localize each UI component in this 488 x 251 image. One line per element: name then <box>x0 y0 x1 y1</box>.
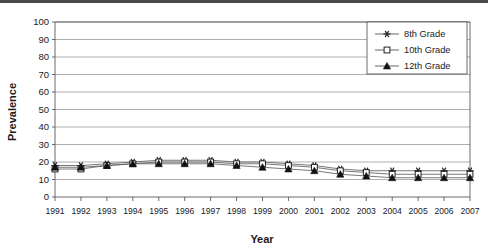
y-tick-label: 10 <box>38 174 49 185</box>
y-tick-label: 50 <box>38 104 49 115</box>
x-tick-label: 1997 <box>201 206 220 216</box>
chart-figure: 0102030405060708090100 19911992199319941… <box>0 0 488 251</box>
x-tick-label: 1993 <box>97 206 116 216</box>
x-tick-label: 2004 <box>383 206 402 216</box>
x-tick-labels-group: 1991199219931994199519961997199819992000… <box>45 206 479 216</box>
x-tick-label: 2003 <box>357 206 376 216</box>
x-tick-label: 2007 <box>460 206 479 216</box>
x-axis-title: Year <box>250 233 274 245</box>
legend-label: 10th Grade <box>404 45 451 55</box>
legend-label: 12th Grade <box>404 61 451 71</box>
y-tick-labels-group: 0102030405060708090100 <box>33 16 49 202</box>
x-tick-label: 2000 <box>279 206 298 216</box>
y-axis-title: Prevalence <box>6 83 18 141</box>
x-tick-label: 1991 <box>45 206 64 216</box>
y-tick-label: 80 <box>38 51 49 62</box>
y-tick-label: 30 <box>38 139 49 150</box>
y-tick-label: 0 <box>44 191 49 202</box>
data-point-marker <box>384 47 390 53</box>
x-tick-label: 2006 <box>435 206 454 216</box>
x-tick-label: 1992 <box>71 206 90 216</box>
y-tick-label: 60 <box>38 86 49 97</box>
x-tick-label: 1998 <box>227 206 246 216</box>
x-tick-label: 2001 <box>305 206 324 216</box>
legend-entries-group: 8th Grade10th Grade12th Grade <box>375 29 451 71</box>
x-tick-label: 2005 <box>409 206 428 216</box>
y-tick-label: 90 <box>38 34 49 45</box>
x-tick-label: 1994 <box>123 206 142 216</box>
y-tick-label: 100 <box>33 16 49 27</box>
y-tick-label: 70 <box>38 69 49 80</box>
prevalence-line-chart: 0102030405060708090100 19911992199319941… <box>0 0 488 251</box>
x-tick-label: 2002 <box>331 206 350 216</box>
data-series-group <box>51 157 473 181</box>
legend-label: 8th Grade <box>404 29 445 39</box>
x-tick-marks-group <box>55 197 470 201</box>
y-tick-label: 40 <box>38 121 49 132</box>
y-tick-label: 20 <box>38 156 49 167</box>
x-tick-label: 1999 <box>253 206 272 216</box>
x-tick-label: 1995 <box>149 206 168 216</box>
chart-legend[interactable]: 8th Grade10th Grade12th Grade <box>367 22 467 74</box>
x-tick-label: 1996 <box>175 206 194 216</box>
